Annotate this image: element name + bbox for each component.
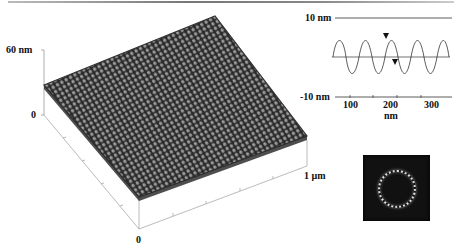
z-axis-top-label: 60 nm	[6, 44, 32, 55]
profile-x-unit: nm	[384, 110, 398, 121]
fft-inset	[363, 155, 430, 221]
profile-x-tick-100: 100	[343, 99, 358, 110]
profile-x-tick-200: 200	[383, 99, 398, 110]
profile-y-top-label: 10 nm	[305, 12, 331, 23]
x-axis-end-label: 1 µm	[304, 170, 326, 181]
profile-x-tick-300: 300	[424, 99, 439, 110]
trough-marker	[392, 59, 398, 65]
peak-marker	[383, 33, 389, 39]
fft-ring	[378, 170, 416, 208]
afm-surface	[44, 16, 307, 197]
line-profile	[332, 18, 452, 98]
profile-y-bottom-label: -10 nm	[300, 91, 330, 102]
x-axis-origin-label: 0	[136, 234, 141, 245]
z-axis-bottom-label: 0	[31, 109, 36, 120]
